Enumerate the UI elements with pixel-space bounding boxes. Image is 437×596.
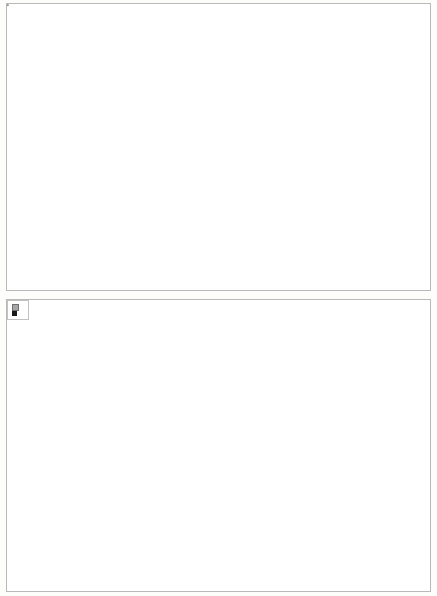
plot-wrapper-top	[7, 4, 430, 290]
legend-item-fuehrungsebene	[12, 304, 22, 311]
chart-legend	[7, 300, 29, 320]
legend-item-ausfuehrungsebene	[12, 311, 22, 316]
legend-swatch-light-icon	[12, 304, 19, 311]
plot-wrapper-bottom	[7, 300, 430, 591]
chart-panel-bottom	[6, 299, 431, 592]
chart-panel-top	[6, 3, 431, 291]
figure-page	[0, 0, 437, 596]
legend-swatch-dark-icon	[12, 311, 17, 316]
plot-area-top	[7, 4, 9, 6]
